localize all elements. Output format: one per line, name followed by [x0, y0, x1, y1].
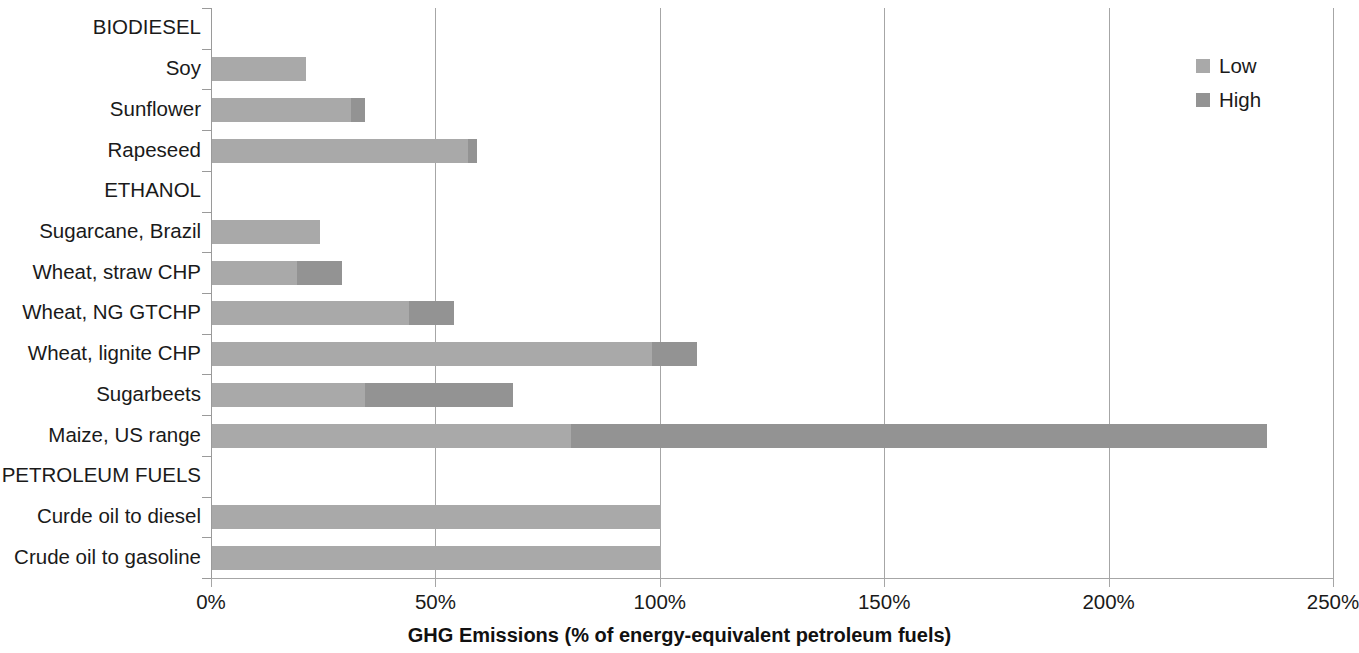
category-label-maize-us-range: Maize, US range — [48, 425, 201, 446]
bar-segment-low — [212, 220, 320, 244]
bar-curde-oil-to-diesel[interactable] — [212, 505, 661, 529]
gridline-100% — [660, 8, 661, 578]
bar-segment-low — [212, 424, 571, 448]
y-axis-tick — [202, 415, 211, 416]
y-axis-line — [211, 8, 212, 578]
y-axis-tick — [202, 497, 211, 498]
gridline-250% — [1333, 8, 1334, 578]
legend-label-high: High — [1219, 90, 1261, 111]
bar-wheat-ng-gtchp[interactable] — [212, 301, 454, 325]
bar-segment-low — [212, 98, 351, 122]
category-label-wheat-lignite-chp: Wheat, lignite CHP — [28, 343, 201, 364]
bar-soy[interactable] — [212, 57, 306, 81]
legend-item-low[interactable]: Low — [1196, 56, 1261, 77]
bar-segment-high — [652, 342, 697, 366]
x-axis-tick — [660, 578, 661, 587]
category-label-sugarbeets: Sugarbeets — [96, 384, 201, 405]
y-axis-tick — [202, 537, 211, 538]
chart-legend: Low High — [1196, 56, 1261, 110]
bar-segment-low — [212, 301, 409, 325]
x-axis-tick — [1109, 578, 1110, 587]
bar-sunflower[interactable] — [212, 98, 365, 122]
gridline-50% — [435, 8, 436, 578]
y-axis-tick — [202, 212, 211, 213]
y-axis-tick — [202, 8, 211, 9]
category-label-sugarcane-brazil: Sugarcane, Brazil — [39, 221, 201, 242]
category-label-curde-oil-to-diesel: Curde oil to diesel — [37, 506, 201, 527]
x-axis-tick — [884, 578, 885, 587]
bar-segment-low — [212, 546, 661, 570]
y-axis-tick — [202, 49, 211, 50]
bar-segment-high — [468, 139, 477, 163]
legend-item-high[interactable]: High — [1196, 90, 1261, 111]
category-label-rapeseed: Rapeseed — [108, 140, 201, 161]
ghg-emissions-bar-chart: BIODIESELSoySunflowerRapeseedETHANOLSuga… — [0, 0, 1359, 653]
bar-segment-low — [212, 261, 297, 285]
bar-wheat-straw-chp[interactable] — [212, 261, 342, 285]
category-label-biodiesel: BIODIESEL — [93, 17, 201, 38]
legend-swatch-high-icon — [1196, 93, 1210, 107]
x-axis-label-150%: 150% — [858, 590, 910, 614]
x-axis-label-100%: 100% — [634, 590, 686, 614]
bar-segment-low — [212, 139, 468, 163]
y-axis-tick — [202, 130, 211, 131]
bar-segment-low — [212, 57, 306, 81]
legend-label-low: Low — [1219, 56, 1257, 77]
y-axis-tick — [202, 89, 211, 90]
category-label-ethanol: ETHANOL — [104, 180, 201, 201]
bar-segment-low — [212, 342, 652, 366]
x-axis-tick — [435, 578, 436, 587]
bar-segment-high — [409, 301, 454, 325]
category-label-wheat-straw-chp: Wheat, straw CHP — [32, 262, 201, 283]
bar-segment-low — [212, 505, 661, 529]
y-axis-tick — [202, 334, 211, 335]
x-axis-label-50%: 50% — [415, 590, 456, 614]
bar-segment-low — [212, 383, 365, 407]
x-axis-label-250%: 250% — [1307, 590, 1359, 614]
category-label-petroleum-fuels: PETROLEUM FUELS — [2, 465, 201, 486]
bar-crude-oil-to-gasoline[interactable] — [212, 546, 661, 570]
bar-maize-us-range[interactable] — [212, 424, 1267, 448]
y-axis-tick — [202, 374, 211, 375]
bar-wheat-lignite-chp[interactable] — [212, 342, 697, 366]
category-label-crude-oil-to-gasoline: Crude oil to gasoline — [14, 547, 201, 568]
x-axis-tick — [211, 578, 212, 587]
legend-swatch-low-icon — [1196, 59, 1210, 73]
bar-segment-high — [365, 383, 513, 407]
category-label-soy: Soy — [166, 58, 201, 79]
bar-segment-high — [571, 424, 1267, 448]
x-axis-tick — [1333, 578, 1334, 587]
category-label-sunflower: Sunflower — [110, 99, 201, 120]
y-axis-tick — [202, 456, 211, 457]
bar-rapeseed[interactable] — [212, 139, 477, 163]
x-axis-label-200%: 200% — [1082, 590, 1134, 614]
x-axis-label-0%: 0% — [196, 590, 226, 614]
bar-sugarcane-brazil[interactable] — [212, 220, 320, 244]
gridline-200% — [1109, 8, 1110, 578]
y-axis-tick — [202, 252, 211, 253]
y-axis-tick — [202, 171, 211, 172]
bar-segment-high — [351, 98, 364, 122]
x-axis-line — [211, 578, 1334, 579]
bar-segment-high — [297, 261, 342, 285]
category-label-wheat-ng-gtchp: Wheat, NG GTCHP — [22, 302, 201, 323]
y-axis-tick — [202, 578, 211, 579]
bar-sugarbeets[interactable] — [212, 383, 513, 407]
y-axis-tick — [202, 293, 211, 294]
gridline-150% — [884, 8, 885, 578]
x-axis-title: GHG Emissions (% of energy-equivalent pe… — [0, 624, 1359, 647]
